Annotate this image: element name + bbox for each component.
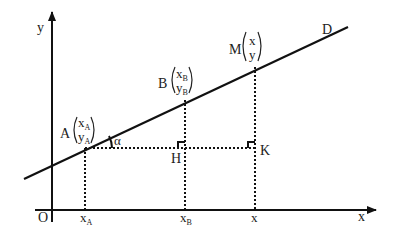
slope-diagram: y x O D α A xA yA B xB yB M x y H K xA x… xyxy=(0,0,394,238)
svg-text:M: M xyxy=(229,42,242,57)
angle-label: α xyxy=(114,133,121,148)
point-a-label: A xA yA xyxy=(60,115,94,146)
svg-text:x: x xyxy=(249,33,256,48)
svg-text:A: A xyxy=(60,126,71,141)
x-tick-label-a: xA xyxy=(80,210,93,227)
line-d-label: D xyxy=(322,22,332,37)
point-k-label: K xyxy=(260,143,270,158)
point-b-label: B xB yB xyxy=(158,66,192,97)
svg-text:B: B xyxy=(158,76,167,91)
y-axis-label: y xyxy=(37,20,44,35)
x-axis-label: x xyxy=(358,209,365,224)
svg-text:y: y xyxy=(249,47,256,62)
x-tick-label-x: x xyxy=(251,210,258,225)
origin-label: O xyxy=(38,210,48,225)
point-m-label: M x y xyxy=(229,32,261,62)
x-tick-label-b: xB xyxy=(180,210,192,227)
point-h-label: H xyxy=(171,151,181,166)
